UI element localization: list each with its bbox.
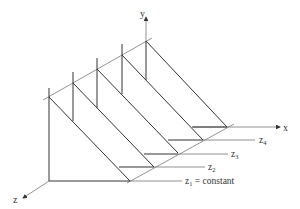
label-z4: z4 [259, 135, 267, 146]
plane-diagonals [49, 41, 227, 181]
z-axis-label: z [13, 194, 18, 205]
label-z3: z3 [231, 149, 238, 160]
label-leaders [130, 140, 255, 181]
x-axis-label: x [283, 122, 288, 133]
floor-front-line [127, 124, 234, 183]
y-axis-label: y [140, 8, 145, 19]
label-z1-constant: z1 = constant [185, 176, 235, 187]
z-axis [23, 181, 49, 198]
plane-verticals [49, 41, 146, 181]
label-z2: z2 [208, 162, 215, 173]
coordinate-diagram: y x z z1 = constant z2 z3 z4 [0, 0, 300, 209]
